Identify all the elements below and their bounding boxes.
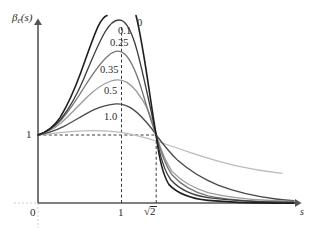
curve-label-1-0: 1.0 xyxy=(104,112,117,123)
tick-label-x-sqrt2: √2 xyxy=(144,206,156,217)
tick-label-y-one: 1 xyxy=(26,129,32,140)
curve-damping-0.1 xyxy=(38,20,294,202)
x-axis-label: s xyxy=(300,207,304,217)
curve-label-0: 0 xyxy=(137,18,142,29)
curve-damping-0-right-branch xyxy=(136,16,294,204)
curve-damping-0.35 xyxy=(38,80,294,202)
y-axis-label: βe(s) xyxy=(12,12,32,24)
common-intersection-point xyxy=(155,134,157,136)
curve-label-0-25: 0.25 xyxy=(110,38,128,49)
curve-damping-0-left-branch xyxy=(38,16,107,136)
y-axis-label-argument: (s) xyxy=(21,11,33,23)
curve-label-0-35: 0.35 xyxy=(100,65,118,76)
resonance-plot-figure: βe(s) s 0 1 1 √2 0 0.1 0.25 0.35 0.5 1.0 xyxy=(0,0,316,238)
curve-label-0-1: 0.1 xyxy=(118,26,131,37)
curve-label-0-5: 0.5 xyxy=(104,86,117,97)
plot-canvas xyxy=(0,0,316,238)
tick-label-origin: 0 xyxy=(30,207,36,218)
curve-damping-0.5 xyxy=(38,104,294,201)
sqrt-overbar xyxy=(150,206,157,207)
tick-label-x-one: 1 xyxy=(118,207,124,218)
